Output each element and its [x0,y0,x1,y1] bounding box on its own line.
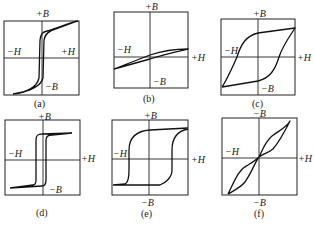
panel-e-minus-h: −H [113,148,128,159]
panel-d-minus-h: −H [8,148,23,159]
panel-a-minus-h: −H [7,46,22,57]
panel-c-plus-b: +B [253,8,266,19]
panel-c-loop [222,28,295,87]
panel-e-caption: (e) [141,208,152,220]
panel-e-plus-h: +H [191,154,206,165]
panel-d-caption: (d) [36,207,48,219]
panel-b-plus-h: +H [191,52,206,63]
panel-a-caption: (a) [34,98,45,110]
panel-c-minus-h: −H [224,45,239,56]
panel-a-plus-b: +B [36,8,49,19]
panel-f-minus-b: −B [253,197,266,208]
panel-b-minus-b: −B [153,76,166,87]
panel-c-minus-b: −B [261,83,274,94]
panel-e-plus-b: +B [144,110,157,121]
panel-b-plus-b: +B [145,1,158,12]
panel-e: +B −H +H −B (e) [112,110,206,220]
panel-f-top-label: −B [253,108,266,119]
panel-c-plus-h: +H [297,52,312,63]
panel-b-minus-h: −H [117,44,132,55]
panel-d: +B −H +H −B (d) [5,111,96,219]
panel-f-minus-h: −H [225,146,240,157]
panel-b: +B −H +H −B (b) [114,1,206,105]
panel-f-plus-h: +H [298,153,313,164]
panel-a-plus-h: +H [61,46,76,57]
panel-f-caption: (f) [254,208,264,220]
panel-d-minus-b: −B [49,184,62,195]
panel-c: +B −H +H −B (c) [221,8,312,110]
panel-a-minus-b: −B [45,81,58,92]
panel-d-loop [10,133,72,188]
panel-d-plus-h: +H [81,153,96,164]
panel-b-caption: (b) [143,93,155,105]
panel-e-minus-b: −B [141,197,154,208]
panel-f: −B −H +H −B (f) [222,108,313,220]
panel-d-plus-b: +B [38,111,51,122]
panel-a: +B −H +H −B (a) [4,8,79,110]
hysteresis-figure: +B −H +H −B (a) +B −H +H −B (b) +B −H +H… [0,0,314,226]
